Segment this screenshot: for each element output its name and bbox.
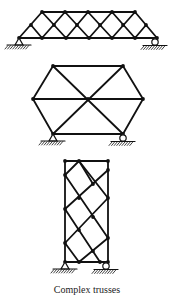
truss-member [65, 243, 79, 262]
truss-joint [133, 10, 137, 14]
truss-member [123, 66, 143, 99]
truss-joint [133, 36, 137, 40]
roller-support-icon [109, 135, 135, 146]
truss-joint [87, 36, 91, 40]
truss-joint [98, 23, 102, 27]
truss-joint [106, 168, 110, 172]
truss-member [65, 175, 108, 238]
truss-joint [106, 196, 110, 200]
truss-joint [51, 64, 55, 68]
truss-joint [77, 159, 81, 163]
truss-joint [91, 249, 95, 253]
roller-support-icon [141, 39, 167, 50]
truss-joint [106, 159, 110, 163]
truss-member [33, 99, 53, 134]
complex-trusses-diagram [0, 0, 174, 299]
truss-joint [63, 159, 67, 163]
truss-tall-lattice [51, 159, 118, 273]
truss-member [65, 161, 79, 175]
truss-joint [91, 182, 95, 186]
pin-support-icon [51, 262, 77, 273]
roller-support-icon [92, 263, 118, 274]
pin-support-icon [5, 38, 31, 49]
truss-joint [77, 196, 81, 200]
truss-joint [63, 241, 67, 245]
truss-member [31, 25, 42, 38]
truss-joint [86, 10, 90, 14]
truss-joint [40, 36, 44, 40]
truss-joint [98, 260, 102, 264]
truss-joint [110, 36, 114, 40]
truss-member [79, 161, 93, 184]
truss-joint [75, 23, 79, 27]
truss-joint [106, 236, 110, 240]
truss-joint [63, 173, 67, 177]
figure-caption: Complex trusses [0, 284, 174, 295]
truss-joint [77, 260, 81, 264]
truss-top-lattice [5, 10, 167, 49]
truss-member [123, 99, 143, 134]
truss-joint [40, 10, 44, 14]
truss-joint [64, 36, 68, 40]
truss-joint [63, 10, 67, 14]
truss-joint [77, 228, 81, 232]
truss-joint [110, 10, 114, 14]
truss-joint [121, 23, 125, 27]
pin-support-icon [39, 134, 65, 145]
truss-joint [52, 23, 56, 27]
truss-joint [141, 97, 145, 101]
truss-member [65, 198, 108, 243]
truss-member [33, 66, 53, 99]
truss-joint [121, 64, 125, 68]
truss-joint [63, 207, 67, 211]
truss-joint [31, 97, 35, 101]
truss-joint [144, 23, 148, 27]
truss-joint [29, 23, 33, 27]
truss-member [135, 25, 146, 38]
truss-joint [91, 215, 95, 219]
truss-joint [86, 97, 90, 101]
truss-hexagon [31, 64, 145, 145]
